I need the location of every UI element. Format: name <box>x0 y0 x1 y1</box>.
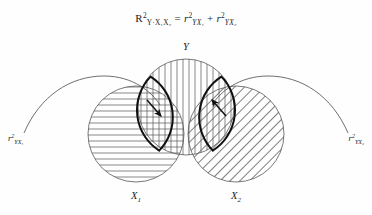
eq-term2-subscript: YX₂ <box>225 18 237 27</box>
eq-term1-subscript: YX₁ <box>192 18 204 27</box>
figure-canvas: R2Y·X₁X₂ = r2YX₁ + r2YX₂ Y X1 X2 r2YX₁ r… <box>0 0 372 215</box>
circle-x1-label-sub: 1 <box>137 196 141 204</box>
circle-x2-label-sub: 2 <box>237 196 241 204</box>
venn-diagram-svg: R2Y·X₁X₂ = r2YX₁ + r2YX₂ Y X1 X2 r2YX₁ r… <box>0 0 372 215</box>
eq-lhs-subscript: Y·X₁X₂ <box>147 18 172 27</box>
